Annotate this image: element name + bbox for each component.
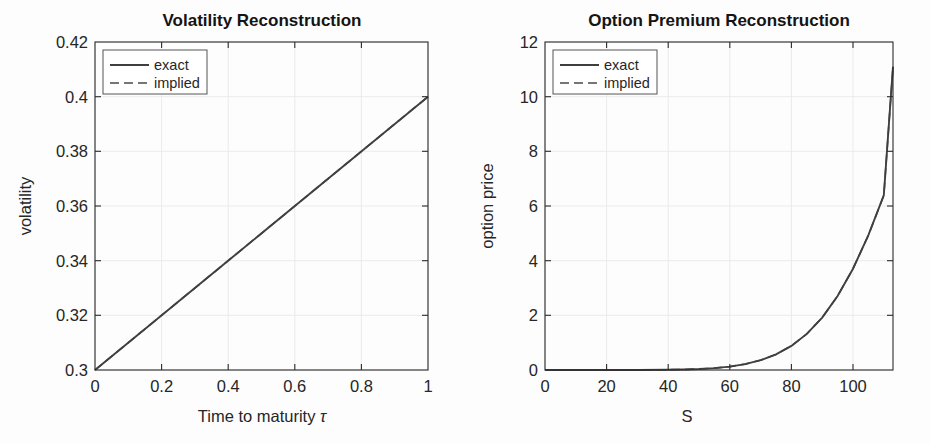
ytick-labels-option-premium: 0 2 4 6 8 10 12 xyxy=(520,33,538,379)
ytick-label: 0.3 xyxy=(65,361,88,379)
chart-panel-volatility: Volatility Reconstruction xyxy=(0,0,465,444)
xtick-label: 80 xyxy=(782,377,800,395)
legend-volatility[interactable]: exact implied xyxy=(103,50,207,94)
xtick-label: 20 xyxy=(597,377,615,395)
ytick-labels-volatility: 0.3 0.32 0.34 0.36 0.38 0.4 0.42 xyxy=(56,33,88,379)
ytick-label: 6 xyxy=(529,197,538,215)
series-group-volatility xyxy=(95,97,428,370)
xtick-label: 100 xyxy=(839,377,867,395)
xtick-label: 0.2 xyxy=(150,377,173,395)
xtick-label: 40 xyxy=(659,377,677,395)
xaxis-label-text: Time to maturity xyxy=(198,407,320,425)
ytick-label: 12 xyxy=(520,33,538,51)
series-group-option-premium xyxy=(545,67,893,370)
series-implied-option-premium xyxy=(545,67,893,370)
xtick-labels-volatility: 0 0.2 0.4 0.6 0.8 1 xyxy=(90,377,432,395)
ytick-label: 0 xyxy=(529,361,538,379)
ytick-label: 0.34 xyxy=(56,252,88,270)
legend-label-exact: exact xyxy=(604,57,639,73)
yaxis-label-volatility: volatility xyxy=(16,176,34,235)
xaxis-label-option-premium: S xyxy=(681,407,692,425)
xtick-label: 1 xyxy=(423,377,432,395)
ytick-label: 4 xyxy=(529,252,538,270)
figure-canvas: Volatility Reconstruction xyxy=(0,0,930,444)
xtick-labels-option-premium: 0 20 40 60 80 100 xyxy=(540,377,866,395)
volatility-chart-svg: Volatility Reconstruction xyxy=(0,0,465,444)
xaxis-label-volatility: Time to maturity τ xyxy=(198,407,328,425)
ytick-label: 0.32 xyxy=(56,306,88,324)
series-exact-option-premium xyxy=(545,67,893,370)
legend-label-implied: implied xyxy=(154,75,200,91)
chart-title-option-premium: Option Premium Reconstruction xyxy=(588,11,850,30)
tau-symbol: τ xyxy=(320,407,328,425)
xtick-label: 0 xyxy=(540,377,549,395)
chart-title-volatility: Volatility Reconstruction xyxy=(163,11,362,30)
xtick-label: 0.4 xyxy=(217,377,240,395)
option-premium-chart-svg: Option Premium Reconstruction xyxy=(465,0,930,444)
ytick-label: 0.4 xyxy=(65,88,88,106)
ytick-label: 0.38 xyxy=(56,142,88,160)
series-exact-volatility xyxy=(95,97,428,370)
legend-label-implied: implied xyxy=(604,75,650,91)
ytick-label: 0.42 xyxy=(56,33,88,51)
ytick-label: 0.36 xyxy=(56,197,88,215)
yaxis-label-option-premium: option price xyxy=(478,163,496,248)
legend-label-exact: exact xyxy=(154,57,189,73)
ytick-label: 10 xyxy=(520,88,538,106)
ytick-label: 2 xyxy=(529,306,538,324)
xtick-label: 0 xyxy=(90,377,99,395)
legend-option-premium[interactable]: exact implied xyxy=(553,50,657,94)
xtick-label: 0.6 xyxy=(283,377,306,395)
xtick-label: 60 xyxy=(721,377,739,395)
chart-panel-option-premium: Option Premium Reconstruction xyxy=(465,0,930,444)
ytick-label: 8 xyxy=(529,142,538,160)
xtick-label: 0.8 xyxy=(350,377,373,395)
